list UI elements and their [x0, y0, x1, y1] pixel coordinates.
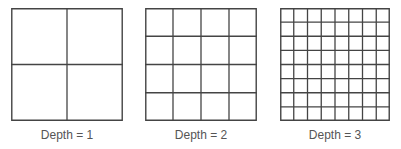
caption-depth-2: Depth = 2 — [145, 128, 257, 142]
caption-depth-1: Depth = 1 — [11, 128, 123, 142]
panel-depth-3: Depth = 3 — [268, 0, 401, 149]
panel-depth-1: Depth = 1 — [0, 0, 135, 149]
caption-depth-3: Depth = 3 — [280, 128, 390, 142]
grid-depth-2 — [145, 8, 257, 121]
grid-depth-1 — [11, 8, 123, 121]
grid-depth-3 — [280, 8, 390, 121]
panel-depth-2: Depth = 2 — [134, 0, 269, 149]
